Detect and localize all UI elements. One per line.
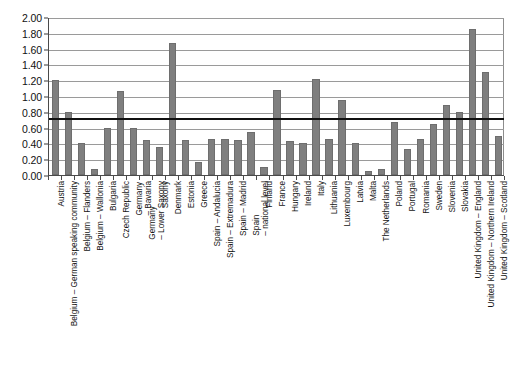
x-tick-mark [309, 176, 310, 180]
bar [169, 43, 176, 175]
x-axis-category-label: Slovakia [462, 181, 471, 212]
x-axis-category-label: Denmark [175, 181, 184, 214]
bar [273, 90, 280, 175]
y-tick-label: 0.00 [22, 171, 42, 182]
bar [404, 149, 411, 175]
y-tick-label: 0.60 [22, 123, 42, 134]
bar [247, 132, 254, 175]
x-axis-labels: AustriaBelgium – German speaking communi… [48, 181, 504, 367]
x-axis-category-label: Malta [370, 181, 379, 201]
x-tick-mark [126, 176, 127, 180]
bar [482, 72, 489, 175]
x-axis-tickmarks [48, 176, 504, 180]
y-axis: 0.000.200.400.600.801.001.201.401.601.80… [0, 18, 42, 176]
x-tick-mark [439, 176, 440, 180]
bar [365, 171, 372, 175]
x-tick-mark [74, 176, 75, 180]
bar-chart: 0.000.200.400.600.801.001.201.401.601.80… [0, 0, 514, 367]
bar [495, 136, 502, 176]
x-axis-category-label: Czech Republic [123, 181, 132, 238]
y-tick-label: 1.00 [22, 92, 42, 103]
bar [182, 140, 189, 175]
x-tick-mark [87, 176, 88, 180]
bar [65, 112, 72, 175]
x-tick-mark [204, 176, 205, 180]
x-tick-mark [465, 176, 466, 180]
x-tick-mark [283, 176, 284, 180]
x-tick-mark [491, 176, 492, 180]
x-axis-category-label: United Kingdom – England [475, 181, 484, 278]
y-tick-label: 0.20 [22, 155, 42, 166]
bar [156, 147, 163, 175]
x-axis-category-label: Ireland [305, 181, 314, 206]
x-tick-mark [296, 176, 297, 180]
y-tick-label: 0.80 [22, 108, 42, 119]
bar [417, 139, 424, 175]
x-tick-mark [426, 176, 427, 180]
x-tick-mark [178, 176, 179, 180]
x-tick-mark [61, 176, 62, 180]
x-tick-mark [361, 176, 362, 180]
x-axis-category-label: Spain – Madrid [240, 181, 249, 236]
x-axis-category-label: Spain – Andalucia [214, 181, 223, 247]
x-axis-category-label: Estonia [188, 181, 197, 208]
plot-area [48, 18, 504, 176]
x-axis-category-label: Saxony [162, 181, 171, 208]
x-tick-mark [348, 176, 349, 180]
bar [130, 128, 137, 175]
x-axis-category-label: The Netherlands [383, 181, 392, 242]
bar [221, 139, 228, 175]
x-tick-mark [387, 176, 388, 180]
x-axis-category-label: Finland [266, 181, 275, 208]
bar [286, 141, 293, 175]
bar [78, 143, 85, 175]
x-axis-category-label: Latvia [357, 181, 366, 203]
bar [117, 91, 124, 175]
x-axis-category-label: Belgium – Flanders [84, 181, 93, 252]
bar [456, 112, 463, 175]
bar [378, 169, 385, 175]
x-tick-mark [139, 176, 140, 180]
y-tick-label: 1.60 [22, 44, 42, 55]
y-tick-label: 1.40 [22, 60, 42, 71]
bar [443, 105, 450, 175]
x-tick-mark [113, 176, 114, 180]
x-tick-mark [335, 176, 336, 180]
x-tick-mark [413, 176, 414, 180]
bar [469, 29, 476, 175]
x-axis-category-label: Hungary [292, 181, 301, 212]
x-tick-mark [452, 176, 453, 180]
x-axis-category-label: Luxembourg [344, 181, 353, 227]
x-axis-category-label: United Kingdom – Scotland [501, 181, 510, 280]
x-tick-mark [165, 176, 166, 180]
x-tick-mark [478, 176, 479, 180]
bar [391, 122, 398, 175]
x-tick-mark [269, 176, 270, 180]
x-axis-category-label: Bulgaria [110, 181, 119, 211]
x-tick-mark [217, 176, 218, 180]
bar [338, 100, 345, 175]
x-tick-mark [191, 176, 192, 180]
x-axis-category-label: Belgium – Wallonia [97, 181, 106, 251]
x-axis-category-label: France [279, 181, 288, 206]
y-tick-label: 2.00 [22, 13, 42, 24]
x-axis-category-label: Romania [423, 181, 432, 214]
x-axis-category-label: Slovenia [449, 181, 458, 212]
bar [312, 79, 319, 175]
bar [430, 124, 437, 175]
bar [208, 139, 215, 175]
y-tick-label: 0.40 [22, 139, 42, 150]
x-tick-mark [322, 176, 323, 180]
reference-line [49, 118, 504, 120]
bar [299, 143, 306, 175]
x-tick-mark [256, 176, 257, 180]
bar [104, 128, 111, 175]
x-tick-mark [243, 176, 244, 180]
x-tick-mark [230, 176, 231, 180]
x-axis-category-label: Sweden [436, 181, 445, 211]
bar [260, 167, 267, 175]
x-tick-mark [152, 176, 153, 180]
x-axis-category-label: Portugal [409, 181, 418, 212]
x-axis-category-label: Poland [396, 181, 405, 207]
y-tick-label: 1.80 [22, 29, 42, 40]
